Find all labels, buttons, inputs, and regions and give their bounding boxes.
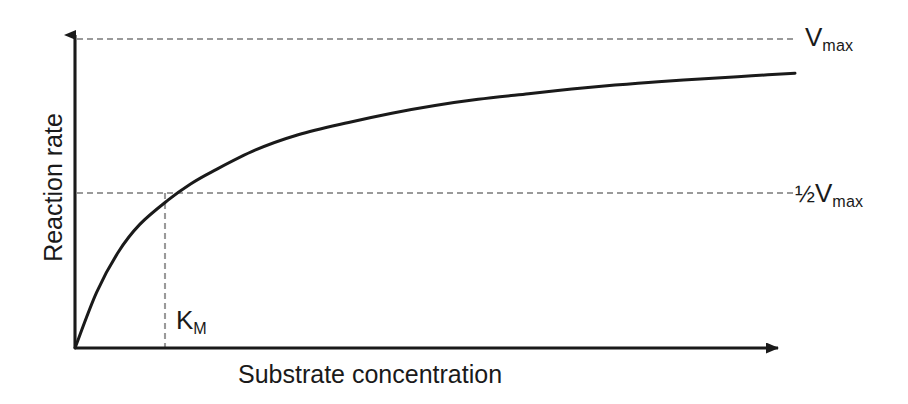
half-vmax-subscript-text: max	[832, 192, 863, 210]
half-vmax-base-text: V	[815, 178, 832, 208]
half-vmax-label: ½Vmax	[795, 180, 863, 209]
vmax-label: Vmax	[805, 24, 853, 53]
km-subscript-text: M	[193, 319, 207, 337]
chart-canvas	[0, 0, 908, 404]
vmax-base-text: V	[805, 22, 822, 52]
x-axis-label: Substrate concentration	[238, 362, 502, 387]
km-label: KM	[176, 307, 207, 336]
km-base-text: K	[176, 305, 193, 335]
half-fraction-glyph: ½	[795, 180, 815, 207]
y-axis-label: Reaction rate	[41, 88, 66, 288]
vmax-subscript-text: max	[822, 36, 853, 54]
michaelis-menten-figure: Reaction rate Substrate concentration Vm…	[0, 0, 908, 404]
